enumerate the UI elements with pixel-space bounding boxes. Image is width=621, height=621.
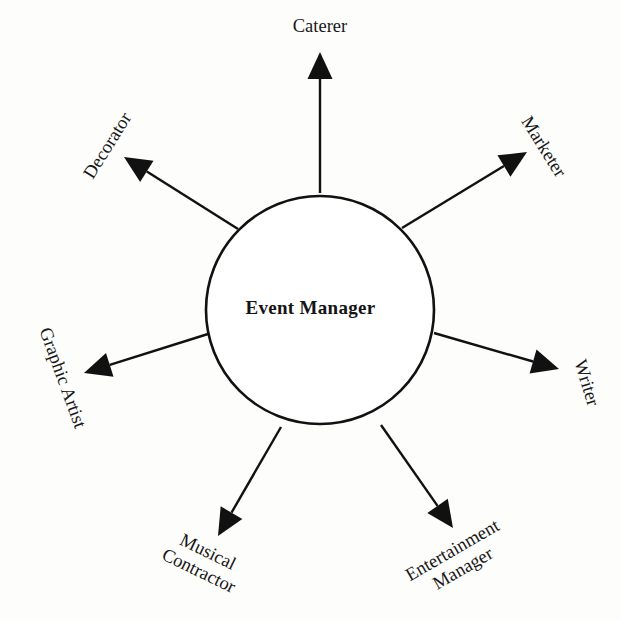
arrow-head-decorator (124, 157, 154, 182)
arrow-shaft-musical-contractor (232, 427, 281, 513)
arrow-marketer (402, 152, 527, 228)
arrow-head-caterer (308, 52, 333, 79)
arrow-head-writer (530, 350, 559, 374)
arrow-shaft-graphic-artist (110, 334, 208, 365)
arrow-head-musical-contractor (218, 506, 242, 536)
diagram-canvas: Event Manager CatererMarketerWriterEnter… (0, 0, 621, 621)
hub-layer (206, 196, 434, 424)
arrow-head-marketer (497, 152, 527, 177)
arrow-shaft-marketer (402, 166, 504, 228)
arrow-shaft-decorator (147, 171, 238, 229)
hub-circle (206, 196, 434, 424)
arrow-shaft-entertainment-manager (381, 425, 438, 506)
arrow-shaft-writer (434, 333, 533, 362)
arrow-caterer (308, 52, 333, 193)
arrow-writer (434, 333, 559, 374)
arrow-head-graphic-artist (84, 353, 114, 377)
arrow-entertainment-manager (381, 425, 453, 528)
radial-diagram-svg (0, 0, 621, 621)
arrow-musical-contractor (218, 427, 281, 536)
arrow-head-entertainment-manager (427, 499, 453, 528)
arrow-graphic-artist (84, 334, 208, 377)
node-label-caterer: Caterer (293, 16, 347, 38)
arrow-decorator (124, 157, 238, 229)
node-label-line: Caterer (293, 16, 347, 36)
